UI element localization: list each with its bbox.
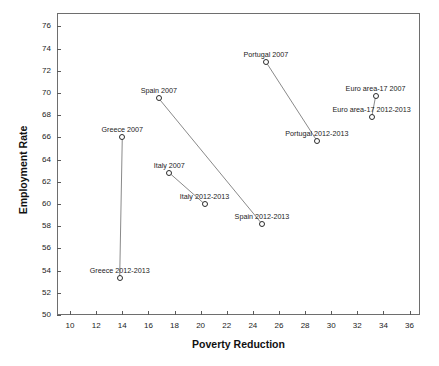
y-tick-mark [57,315,61,316]
y-tick-label: 60 [31,200,51,208]
x-tick-label: 22 [216,322,238,330]
y-axis-title: Employment Rate [17,100,29,240]
x-tick-label: 16 [137,322,159,330]
x-tick-label: 12 [85,322,107,330]
x-tick-label: 18 [164,322,186,330]
x-tick-label: 34 [372,322,394,330]
plot-area [57,13,420,315]
x-tick-label: 36 [399,322,421,330]
x-tick-label: 10 [59,322,81,330]
y-tick-label: 50 [31,311,51,319]
y-tick-label: 72 [31,67,51,75]
scatter-chart: Greece 2007Greece 2012-2013Spain 2007Spa… [0,0,439,366]
y-tick-label: 56 [31,244,51,252]
y-tick-label: 74 [31,45,51,53]
y-tick-label: 68 [31,111,51,119]
y-tick-label: 76 [31,22,51,30]
x-tick-label: 26 [268,322,290,330]
y-tick-label: 58 [31,222,51,230]
x-tick-label: 14 [111,322,133,330]
y-tick-label: 62 [31,178,51,186]
y-tick-label: 66 [31,133,51,141]
x-tick-label: 20 [190,322,212,330]
y-tick-label: 64 [31,156,51,164]
x-tick-label: 32 [346,322,368,330]
x-tick-label: 24 [242,322,264,330]
x-tick-label: 28 [294,322,316,330]
y-tick-label: 52 [31,289,51,297]
y-tick-label: 54 [31,267,51,275]
x-tick-label: 30 [320,322,342,330]
y-tick-label: 70 [31,89,51,97]
x-axis-title: Poverty Reduction [57,338,420,350]
